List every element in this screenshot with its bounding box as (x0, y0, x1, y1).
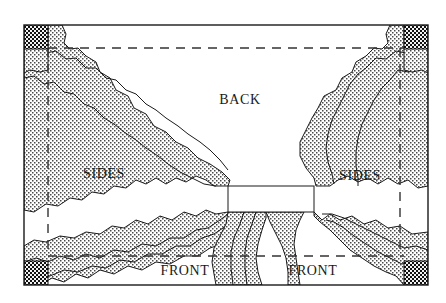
corner-block-bottom-left (24, 261, 48, 285)
center-void-rectangle (228, 186, 314, 212)
label-sides-right: SIDES (339, 168, 381, 183)
figure-root: BACK SIDES SIDES FRONT FRONT (0, 0, 446, 303)
corner-block-top-right (404, 25, 428, 49)
label-front-right: FRONT (289, 263, 338, 278)
label-front-left: FRONT (161, 263, 210, 278)
label-sides-left: SIDES (83, 166, 125, 181)
excavation-plan-diagram: BACK SIDES SIDES FRONT FRONT (0, 0, 446, 303)
label-back: BACK (219, 92, 260, 107)
corner-block-top-left (24, 25, 48, 49)
corner-block-bottom-right (404, 261, 428, 285)
